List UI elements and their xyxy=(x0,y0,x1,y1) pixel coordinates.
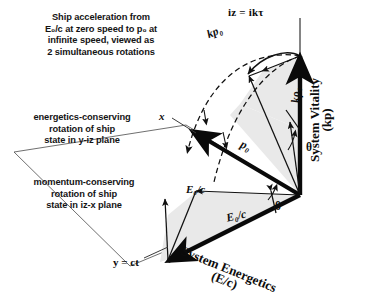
iz-axis-label: iz = ikτ xyxy=(228,6,264,18)
caption-energetics-note: energetics-conserving rotation of ship s… xyxy=(2,112,162,147)
y-axis-label: y = ct xyxy=(113,256,139,268)
caption-energetics-line-3: state in y-iz plane xyxy=(2,135,162,147)
caption-energetics-line-1: energetics-conserving xyxy=(2,112,162,124)
caption-intro-line-4: 2 simultaneous rotations xyxy=(8,47,194,59)
caption-momentum-line-3: state in iz-x plane xyxy=(0,200,168,212)
krho0-inner-label: kρ₀ xyxy=(290,87,302,103)
caption-intro: Ship acceleration from E₀/c at zero spee… xyxy=(8,12,194,58)
caption-momentum-note: momentum-conserving rotation of ship sta… xyxy=(0,177,168,212)
theta-bottom-label: θ xyxy=(275,200,281,212)
x-axis-line xyxy=(172,118,196,133)
e0c-upper-label: E₀/c xyxy=(186,183,205,195)
caption-intro-line-1: Ship acceleration from xyxy=(8,12,194,24)
system-vitality-units-text: (kp) xyxy=(321,78,333,162)
x-axis-label: x xyxy=(159,110,165,122)
diagram-canvas: Ship acceleration from E₀/c at zero spee… xyxy=(0,0,367,293)
caption-energetics-line-2: rotation of ship xyxy=(2,124,162,136)
caption-intro-line-3: infinite speed, viewed as xyxy=(8,35,194,47)
caption-momentum-line-2: rotation of ship xyxy=(0,189,168,201)
caption-intro-line-2: E₀/c at zero speed to p₀ at xyxy=(8,24,194,36)
caption-momentum-line-1: momentum-conserving xyxy=(0,177,168,189)
system-vitality-axis-title: System Vitality (kp) xyxy=(309,78,333,162)
